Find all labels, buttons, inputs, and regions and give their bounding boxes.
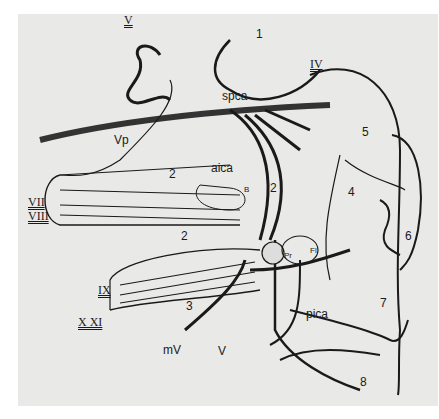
label-aica: aica	[211, 162, 233, 174]
label-mv: mV	[163, 344, 181, 356]
label-cranial-nerves-x-xi: X XI	[78, 316, 102, 328]
label-region-2a: 2	[169, 168, 176, 180]
label-pr: Pr	[284, 252, 292, 260]
label-cranial-nerve-iv: IV	[310, 58, 323, 70]
label-region-7: 7	[380, 297, 387, 309]
label-b: B	[244, 186, 249, 194]
label-fl: Fl	[310, 247, 317, 255]
label-spca: spca	[222, 90, 247, 102]
label-region-2c: 2	[181, 230, 188, 242]
label-cranial-nerve-vii: VII	[28, 196, 45, 208]
label-cranial-nerve-viii: VIII	[28, 210, 49, 222]
label-region-6: 6	[405, 230, 412, 242]
label-region-5: 5	[362, 126, 369, 138]
label-region-2b: 2	[270, 182, 277, 194]
label-region-4: 4	[348, 186, 355, 198]
label-cranial-nerve-ix: IX	[98, 284, 111, 296]
label-region-1: 1	[256, 28, 263, 40]
diagram-drawing	[18, 14, 438, 406]
label-region-8: 8	[360, 376, 367, 388]
label-pica: pica	[306, 308, 328, 320]
label-region-3: 3	[186, 300, 193, 312]
anatomical-diagram: V 1 IV spca Vp 5 aica 2 2 B 4 VII VIII 2…	[18, 14, 438, 406]
label-cranial-nerve-v: V	[124, 14, 133, 26]
label-vp: Vp	[114, 134, 129, 146]
label-v-root: V	[218, 345, 226, 357]
